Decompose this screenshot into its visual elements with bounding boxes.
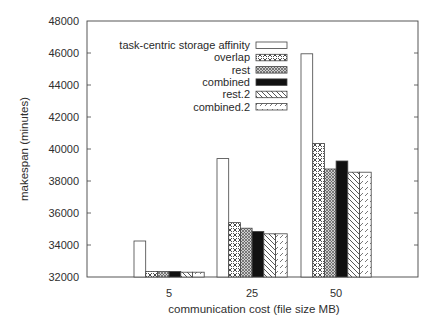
legend-swatch: [256, 67, 287, 74]
bar-combined: [336, 161, 348, 277]
bar-overlap: [313, 143, 325, 277]
y-tick-label: 46000: [48, 47, 79, 59]
legend-label: combined: [202, 76, 250, 88]
bar-rest: [240, 228, 252, 277]
bar-rest-2: [181, 272, 193, 277]
y-tick-label: 32000: [48, 271, 79, 283]
legend-label: combined.2: [193, 101, 250, 113]
y-axis-title: makespan (minutes): [18, 97, 30, 201]
legend: task-centric storage affinityoverlaprest…: [119, 39, 287, 113]
bar-combined-2: [193, 272, 205, 277]
y-tick-label: 42000: [48, 111, 79, 123]
x-axis-title: communication cost (file size MB): [168, 303, 339, 315]
legend-label: task-centric storage affinity: [119, 39, 250, 51]
y-tick-label: 34000: [48, 239, 79, 251]
legend-swatch: [256, 104, 287, 111]
bar-chart: makespan (minutes) 320003400036000380004…: [0, 0, 433, 333]
x-tick-label: 25: [246, 287, 258, 299]
bar-combined: [252, 231, 264, 277]
legend-swatch: [256, 79, 287, 86]
legend-swatch: [256, 42, 287, 49]
x-tick-label: 50: [330, 287, 342, 299]
bar-task-centric-storage-affinity: [301, 54, 313, 277]
bar-group-5: [134, 241, 204, 277]
bar-combined: [169, 271, 181, 277]
y-tick-label: 44000: [48, 79, 79, 91]
x-tick-label: 5: [166, 287, 172, 299]
x-axis: 52550: [166, 287, 342, 299]
legend-label: rest.2: [222, 88, 250, 100]
bar-groups: [134, 54, 371, 277]
bar-overlap: [229, 223, 241, 277]
bar-combined-2: [276, 234, 288, 277]
legend-label: rest: [232, 64, 250, 76]
legend-label: overlap: [214, 51, 250, 63]
bar-rest-2: [264, 234, 276, 277]
bar-rest-2: [348, 172, 360, 277]
legend-swatch: [256, 54, 287, 61]
legend-swatch: [256, 91, 287, 98]
bar-task-centric-storage-affinity: [217, 159, 229, 277]
bar-overlap: [146, 271, 158, 277]
y-tick-label: 38000: [48, 175, 79, 187]
y-tick-label: 36000: [48, 207, 79, 219]
bar-rest: [324, 169, 336, 277]
bar-group-25: [217, 159, 287, 277]
bar-combined-2: [360, 172, 372, 277]
bar-rest: [157, 271, 169, 277]
y-tick-label: 48000: [48, 15, 79, 27]
y-tick-label: 40000: [48, 143, 79, 155]
bar-task-centric-storage-affinity: [134, 241, 146, 277]
bar-group-50: [301, 54, 371, 277]
